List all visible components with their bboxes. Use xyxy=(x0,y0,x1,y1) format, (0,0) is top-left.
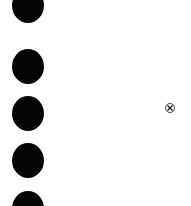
dot-3 xyxy=(12,96,44,131)
dot-5 xyxy=(12,191,44,206)
x-glyph-icon xyxy=(166,104,174,112)
circled-x-icon[interactable] xyxy=(165,103,175,113)
dot-4 xyxy=(12,143,44,178)
dot-1 xyxy=(12,0,44,23)
dot-2 xyxy=(12,49,44,84)
